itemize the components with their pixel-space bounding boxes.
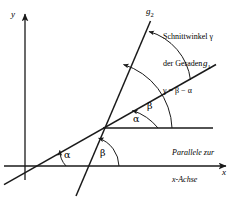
line-g2-subscript: 2 — [151, 11, 154, 18]
x-axis-label: x — [222, 167, 226, 177]
gamma-annotation-line3: γ = β − α — [163, 87, 213, 96]
parallel-annotation-line2: x-Achse — [172, 176, 214, 185]
gamma-annotation-line2: der Geraden — [163, 60, 213, 69]
beta-label-x-axis: β — [100, 148, 106, 159]
alpha-label-x-axis: α — [64, 150, 70, 161]
beta-label-parallel: β — [147, 101, 153, 112]
gamma-annotation: Schnittwinkel γ der Geraden γ = β − α — [163, 15, 213, 113]
alpha-label-parallel: α — [133, 114, 139, 125]
geometry-diagram: y x g2 g1 α β α β Schnittwinkel γ der Ge… — [0, 0, 242, 199]
gamma-annotation-line1: Schnittwinkel γ — [163, 33, 213, 42]
y-axis-label: y — [11, 9, 15, 19]
parallel-annotation-line1: Parallele zur — [172, 149, 214, 158]
parallel-annotation: Parallele zur x-Achse — [172, 131, 214, 199]
parallel-annotation-achse: -Achse — [176, 175, 198, 184]
line-g2-label: g2 — [146, 6, 154, 18]
